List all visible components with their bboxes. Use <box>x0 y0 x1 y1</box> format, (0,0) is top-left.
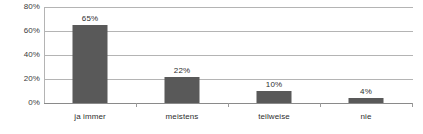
bar-value-nie: 4% <box>360 88 372 96</box>
x-axis-tick-2 <box>228 103 229 107</box>
bar-value-ja-immer: 65% <box>82 15 98 23</box>
category-label-meistens: meistens <box>136 112 228 122</box>
y-axis-tick-labels: 80% 60% 40% 20% 0% <box>0 0 40 134</box>
y-tick-label-60: 60% <box>0 27 40 35</box>
category-label-teilweise: teilweise <box>228 112 320 122</box>
bar-group-nie: 4% <box>320 7 412 103</box>
bar-teilweise[interactable] <box>257 91 292 103</box>
bar-value-teilweise: 10% <box>266 81 282 89</box>
x-axis-category-labels: ja immer meistens teilweise nie <box>44 112 413 126</box>
bar-nie[interactable] <box>349 98 384 103</box>
x-axis-tick-3 <box>320 103 321 107</box>
category-label-ja-immer: ja immer <box>44 112 136 122</box>
bar-value-meistens: 22% <box>174 67 190 75</box>
bar-group-teilweise: 10% <box>228 7 320 103</box>
x-axis-tick-4 <box>412 103 413 107</box>
bar-meistens[interactable] <box>165 77 200 103</box>
y-tick-label-80: 80% <box>0 3 40 11</box>
bar-group-meistens: 22% <box>136 7 228 103</box>
y-tick-label-40: 40% <box>0 51 40 59</box>
category-label-nie: nie <box>320 112 412 122</box>
x-axis-tick-1 <box>136 103 137 107</box>
bar-chart: 80% 60% 40% 20% 0% 65% 22% 10% <box>0 0 423 134</box>
y-tick-label-0: 0% <box>0 99 40 107</box>
bar-ja-immer[interactable] <box>73 25 108 103</box>
bar-group-ja-immer: 65% <box>44 7 136 103</box>
y-tick-label-20: 20% <box>0 75 40 83</box>
bars-layer: 65% 22% 10% 4% <box>44 7 413 103</box>
